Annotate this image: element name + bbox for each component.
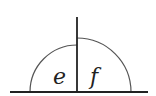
label-e: e [53, 64, 66, 89]
diagram-canvas: e f [0, 0, 156, 96]
right-arc [77, 38, 131, 92]
diagram: e f [0, 0, 156, 96]
label-f: f [88, 64, 102, 89]
